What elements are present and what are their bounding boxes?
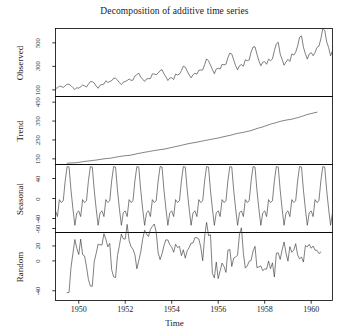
x-axis-title: Time [0,318,349,328]
x-tick-label: 1954 [152,305,192,314]
y-tick-label: -40 [33,279,43,303]
decomposition-plot: Decomposition of additive time series Ti… [0,0,349,336]
panel-label-seasonal: Seasonal [14,164,26,234]
y-tick-label: 500 [33,31,43,55]
y-tick-label: 20 [33,234,43,258]
y-tick-label: 450 [33,90,43,114]
y-tick-label: 40 [33,167,43,191]
panel-label-observed: Observed [14,28,26,98]
panel-label-trend: Trend [14,96,26,166]
y-tick-label: 300 [33,54,43,78]
x-tick-label: 1956 [198,305,238,314]
x-tick-label: 1958 [245,305,285,314]
x-tick-label: 1952 [105,305,145,314]
x-tick-label: 1960 [291,305,331,314]
x-tick-label: 1950 [59,305,99,314]
chart-canvas [0,0,349,336]
panel-label-random: Random [14,232,26,302]
